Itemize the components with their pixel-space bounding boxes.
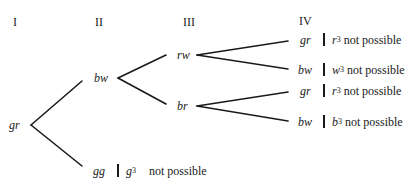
note-symbol: r [332, 34, 337, 46]
note-text: not possible [344, 34, 402, 46]
node-bw: bw [94, 72, 108, 84]
column-header-4: IV [299, 15, 312, 27]
column-header-1: I [13, 16, 17, 28]
branch-br-gr [197, 92, 288, 106]
branch-rw-bw [197, 55, 288, 69]
note-leaf-3: r3 not possible [323, 84, 401, 97]
column-header-2: II [95, 16, 103, 28]
node-br: br [177, 100, 188, 112]
node-leaf-4: bw [298, 116, 312, 128]
note-text: not possible [347, 64, 405, 76]
node-leaf-2: bw [298, 64, 312, 76]
node-root-gr: gr [9, 119, 20, 131]
note-leaf-1: r3 not possible [323, 33, 401, 46]
separator-bar [323, 115, 325, 128]
separator-bar [323, 33, 325, 46]
note-text: not possible [149, 165, 207, 177]
separator-bar [117, 164, 119, 177]
tree-diagram: I II III IV gr bw gg g3 not possible rw … [0, 0, 410, 192]
note-symbol: r [332, 85, 337, 97]
node-rw: rw [177, 49, 190, 61]
column-header-3: III [183, 16, 195, 28]
separator-bar [323, 84, 325, 97]
branch-gr-gg [31, 125, 82, 166]
node-gg: gg [93, 165, 105, 177]
note-text: not possible [344, 85, 402, 97]
note-leaf-2: w3 not possible [323, 63, 405, 76]
node-leaf-3: gr [300, 85, 311, 97]
note-leaf-4: b3 not possible [323, 115, 403, 128]
note-symbol: w [332, 64, 340, 76]
branch-bw-rw [118, 55, 166, 78]
branch-gr-bw [31, 81, 82, 125]
node-leaf-1: gr [300, 34, 311, 46]
branch-rw-gr [197, 41, 288, 55]
branch-bw-br [118, 78, 166, 104]
branch-br-bw [197, 106, 288, 121]
note-text: not possible [345, 116, 403, 128]
note-gg: g3 not possible [117, 164, 207, 177]
separator-bar [323, 63, 325, 76]
